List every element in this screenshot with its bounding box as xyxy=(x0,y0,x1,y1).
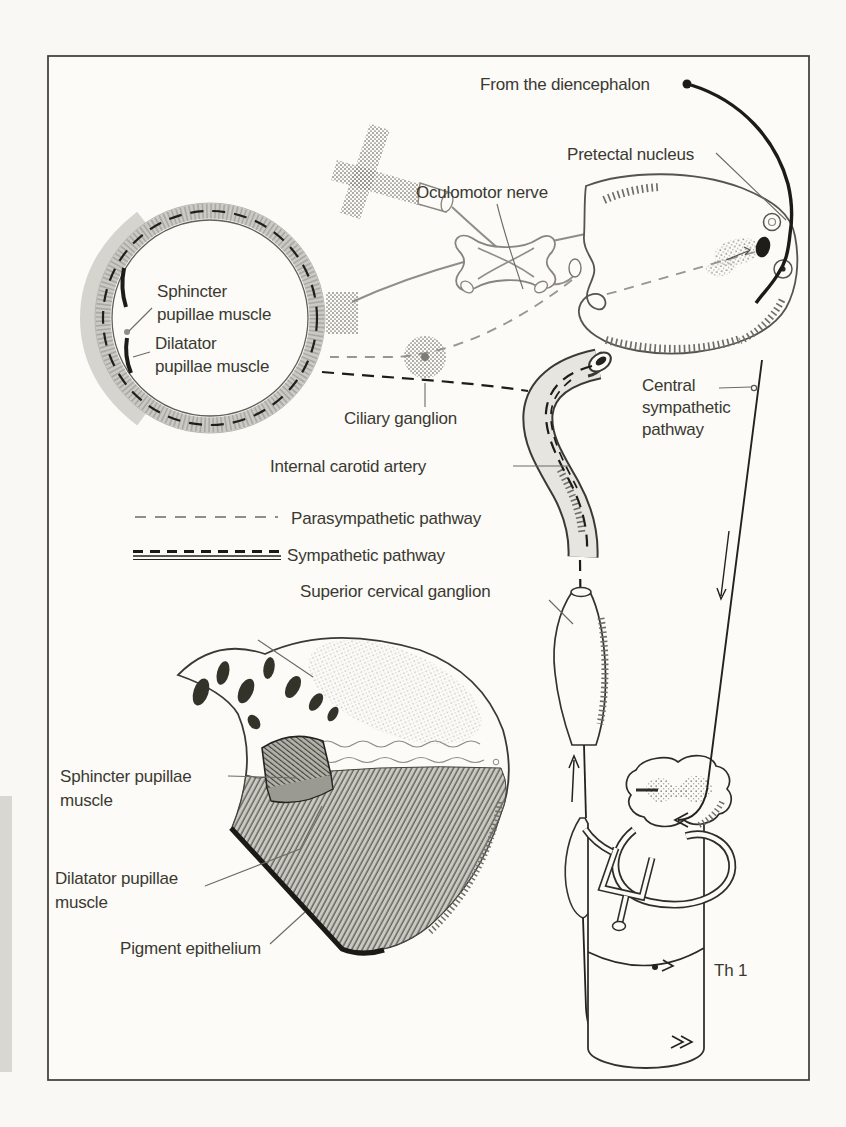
legend-label-sympathetic: Sympathetic pathway xyxy=(287,546,445,565)
label-sphincter-eye-1: Sphincter xyxy=(157,282,228,301)
label-central-2: sympathetic xyxy=(642,398,731,417)
optic-nerve-stump xyxy=(326,292,358,334)
oculomotor-root-tube xyxy=(569,259,581,277)
label-sphincter-detail-1: Sphincter pupillae xyxy=(60,767,192,786)
pupil-pathway-figure: Sphincter pupillae muscle Dilatator pupi… xyxy=(0,0,846,1127)
origin-dot xyxy=(683,80,692,89)
label-internal-carotid: Internal carotid artery xyxy=(270,457,427,476)
label-pretectal-nucleus: Pretectal nucleus xyxy=(567,145,694,164)
legend-label-parasympathetic: Parasympathetic pathway xyxy=(291,509,482,528)
label-dilatator-eye-1: Dilatator xyxy=(155,334,217,353)
label-th1: Th 1 xyxy=(714,961,747,980)
book-page: Sphincter pupillae muscle Dilatator pupi… xyxy=(0,0,846,1127)
label-pigment-epithelium: Pigment epithelium xyxy=(120,939,261,958)
label-superior-cervical: Superior cervical ganglion xyxy=(300,582,490,601)
label-oculomotor-nerve: Oculomotor nerve xyxy=(416,183,548,202)
label-central-3: pathway xyxy=(642,420,705,439)
label-ciliary-ganglion: Ciliary ganglion xyxy=(344,409,457,428)
label-sphincter-eye-2: pupillae muscle xyxy=(157,305,271,324)
label-from-diencephalon: From the diencephalon xyxy=(480,75,650,94)
pretectal-nucleus-shape xyxy=(764,214,781,231)
label-dilatator-eye-2: pupillae muscle xyxy=(155,357,269,376)
label-sphincter-detail-2: muscle xyxy=(60,791,113,810)
label-dilatator-detail-1: Dilatator pupillae xyxy=(55,869,178,888)
midbrain-section xyxy=(569,174,797,353)
label-dilatator-detail-2: muscle xyxy=(55,893,108,912)
label-central-1: Central xyxy=(642,376,695,395)
